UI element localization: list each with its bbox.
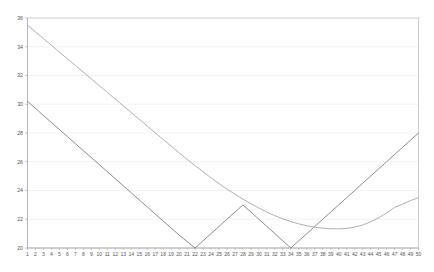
y-tick-label-26: 26: [17, 159, 23, 165]
x-tick-label-41: 41: [344, 251, 350, 257]
chart-background: [0, 0, 434, 272]
y-tick-label-22: 22: [17, 216, 23, 222]
x-tick-label-36: 36: [304, 251, 310, 257]
x-tick-label-11: 11: [105, 251, 110, 257]
x-tick-label-19: 19: [168, 251, 174, 257]
y-tick-label-34: 34: [17, 44, 23, 50]
x-tick-label-49: 49: [408, 251, 414, 257]
x-tick-label-13: 13: [120, 251, 126, 257]
x-tick-label-48: 48: [400, 251, 406, 257]
x-tick-label-31: 31: [264, 251, 270, 257]
x-tick-label-29: 29: [248, 251, 254, 257]
x-tick-label-17: 17: [152, 251, 158, 257]
x-tick-label-33: 33: [280, 251, 286, 257]
x-tick-label-14: 14: [128, 251, 134, 257]
x-tick-label-37: 37: [312, 251, 318, 257]
x-tick-label-12: 12: [112, 251, 118, 257]
x-tick-label-4: 4: [50, 251, 53, 257]
x-tick-label-35: 35: [296, 251, 302, 257]
x-tick-label-25: 25: [216, 251, 222, 257]
x-tick-label-44: 44: [368, 251, 374, 257]
y-tick-label-24: 24: [17, 187, 23, 193]
x-tick-label-34: 34: [288, 251, 294, 257]
x-tick-label-18: 18: [160, 251, 166, 257]
x-tick-label-20: 20: [176, 251, 182, 257]
x-tick-label-15: 15: [136, 251, 142, 257]
x-tick-label-27: 27: [232, 251, 238, 257]
x-tick-label-5: 5: [58, 251, 61, 257]
x-tick-label-30: 30: [256, 251, 262, 257]
x-tick-label-24: 24: [208, 251, 214, 257]
y-tick-label-36: 36: [17, 15, 23, 21]
x-tick-label-3: 3: [42, 251, 45, 257]
x-tick-label-2: 2: [34, 251, 37, 257]
x-tick-label-6: 6: [66, 251, 69, 257]
y-tick-label-20: 20: [17, 245, 23, 251]
x-tick-label-10: 10: [97, 251, 103, 257]
x-tick-label-22: 22: [192, 251, 198, 257]
x-tick-label-47: 47: [392, 251, 398, 257]
x-tick-label-32: 32: [272, 251, 278, 257]
y-tick-label-28: 28: [17, 130, 23, 136]
y-tick-label-32: 32: [17, 72, 23, 78]
x-tick-label-16: 16: [144, 251, 150, 257]
x-tick-label-7: 7: [74, 251, 77, 257]
x-tick-label-21: 21: [184, 251, 190, 257]
x-tick-label-28: 28: [240, 251, 246, 257]
x-tick-label-26: 26: [224, 251, 230, 257]
line-chart: 202224262830323436 123456789101112131415…: [0, 0, 434, 272]
x-tick-label-1: 1: [26, 251, 29, 257]
x-tick-label-38: 38: [320, 251, 326, 257]
x-tick-label-46: 46: [384, 251, 390, 257]
x-tick-label-23: 23: [200, 251, 206, 257]
x-tick-label-40: 40: [336, 251, 342, 257]
x-tick-label-39: 39: [328, 251, 334, 257]
x-tick-label-42: 42: [352, 251, 358, 257]
chart-canvas: 202224262830323436 123456789101112131415…: [0, 0, 434, 272]
x-tick-label-45: 45: [376, 251, 382, 257]
y-tick-label-30: 30: [17, 101, 23, 107]
x-tick-label-8: 8: [82, 251, 85, 257]
x-tick-label-50: 50: [416, 251, 422, 257]
x-tick-label-43: 43: [360, 251, 366, 257]
x-tick-label-9: 9: [90, 251, 93, 257]
